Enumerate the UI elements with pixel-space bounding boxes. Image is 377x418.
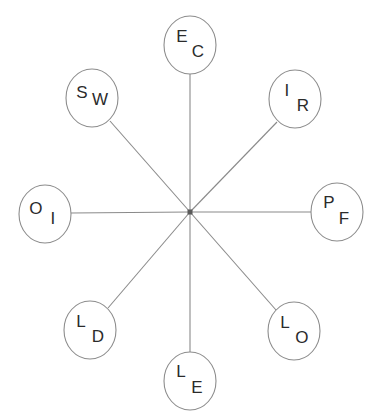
node-ec[interactable]: EC — [164, 16, 216, 74]
node-le-circle — [164, 352, 216, 410]
radial-diagram-svg: ECIRPFLOLELDOISW — [0, 0, 377, 418]
node-oi[interactable]: OI — [19, 185, 71, 243]
node-sw-letter-1: S — [76, 83, 88, 102]
center-hub — [188, 210, 193, 215]
node-ld-letter-2: D — [92, 327, 104, 346]
spoke-ld — [108, 212, 190, 308]
node-le[interactable]: LE — [164, 352, 216, 410]
node-sw-letter-2: W — [92, 90, 108, 109]
node-le-letter-2: E — [191, 378, 203, 397]
node-ec-letter-2: C — [192, 42, 204, 61]
node-pf-letter-1: P — [323, 193, 335, 212]
node-ir[interactable]: IR — [269, 70, 321, 128]
spoke-oi — [71, 212, 190, 213]
center-hub-dot — [188, 210, 193, 215]
node-oi-letter-1: O — [29, 199, 42, 218]
node-lo-letter-2: O — [295, 328, 308, 347]
node-le-letter-1: L — [176, 362, 186, 381]
node-ec-letter-1: E — [176, 27, 188, 46]
radial-diagram-canvas: ECIRPFLOLELDOISW — [0, 0, 377, 418]
node-pf-letter-2: F — [339, 209, 350, 228]
node-ir-circle — [269, 70, 321, 128]
spoke-ir — [190, 122, 277, 212]
node-pf-circle — [311, 183, 363, 241]
node-lo-circle — [268, 302, 320, 360]
node-oi-letter-2: I — [51, 209, 56, 228]
node-ld[interactable]: LD — [64, 301, 116, 359]
spoke-lo — [190, 212, 276, 310]
node-pf[interactable]: PF — [311, 183, 363, 241]
node-sw[interactable]: SW — [66, 69, 118, 127]
node-ir-letter-2: R — [297, 96, 309, 115]
node-ir-letter-1: I — [285, 81, 290, 100]
spoke-sw — [110, 121, 190, 212]
node-oi-circle — [19, 185, 71, 243]
node-ld-letter-1: L — [76, 312, 86, 331]
node-ec-circle — [164, 16, 216, 74]
node-ld-circle — [64, 301, 116, 359]
node-lo[interactable]: LO — [268, 302, 320, 360]
node-lo-letter-1: L — [280, 313, 290, 332]
